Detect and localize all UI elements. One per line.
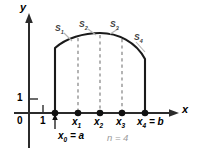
x0-pointer-arrow xyxy=(52,114,58,129)
strip-label-s3-sub: 3 xyxy=(116,25,119,31)
x-partition-label-x3: x3 xyxy=(116,117,125,130)
figure-canvas xyxy=(0,0,198,155)
x-partition-label-x0: x0 = a xyxy=(58,131,84,144)
riemann-sum-figure: y x 0 1 1 S1 S2 S3 S4 x0 = a x1 x2 x3 x4… xyxy=(0,0,198,155)
partition-dashed-lines xyxy=(55,35,145,112)
strip-label-s1: S1 xyxy=(55,24,64,35)
y-axis xyxy=(25,13,33,148)
x-partition-label-x2: x2 xyxy=(94,117,103,130)
x1-sub: 1 xyxy=(78,122,82,129)
strip-label-s1-sub: 1 xyxy=(61,29,64,35)
x-axis-label: x xyxy=(182,104,188,115)
strip-label-s4-sub: 4 xyxy=(140,38,143,44)
x-tick-label-1: 1 xyxy=(40,116,46,126)
x-partition-label-x4: x4 = b xyxy=(137,117,164,130)
x3-sub: 3 xyxy=(122,122,126,129)
origin-label: 0 xyxy=(17,116,23,126)
strip-label-s3: S3 xyxy=(110,20,119,31)
x0-suffix: = a xyxy=(67,130,84,141)
strip-label-s4: S4 xyxy=(134,33,143,44)
y-tick-label-1: 1 xyxy=(17,93,23,103)
strip-label-s2-sub: 2 xyxy=(85,25,88,31)
x4-suffix: = b xyxy=(146,116,164,127)
n-annotation: n = 4 xyxy=(107,133,128,143)
y-axis-label: y xyxy=(20,2,26,13)
x2-sub: 2 xyxy=(100,122,104,129)
x-partition-label-x1: x1 xyxy=(72,117,81,130)
strip-label-s2: S2 xyxy=(79,20,88,31)
